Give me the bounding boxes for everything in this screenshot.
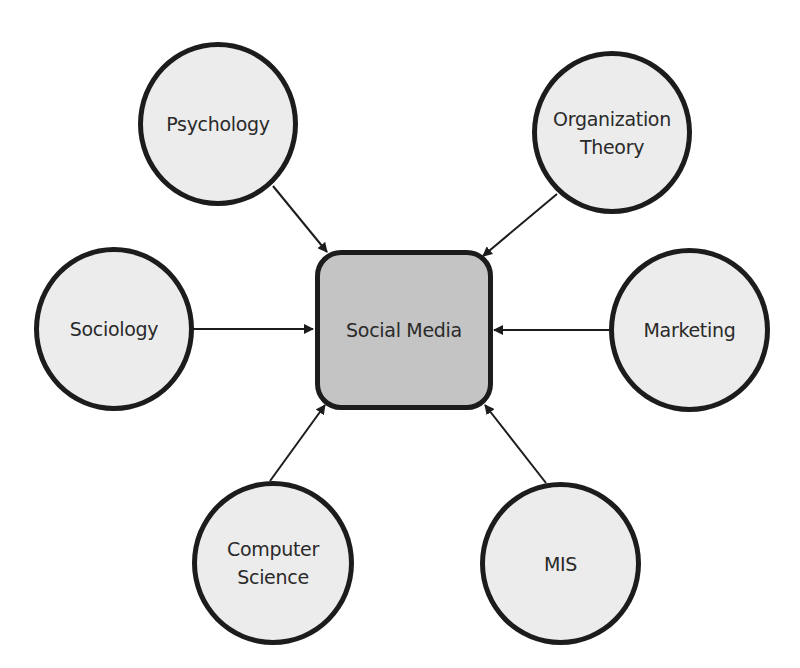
arrow-psychology-to-center [273,186,327,252]
node-computer-science: Computer Science [192,481,354,645]
arrow-computer-science-to-center [270,405,325,481]
node-label-mis: MIS [544,550,577,578]
node-label-marketing: Marketing [644,316,736,344]
node-label-psychology: Psychology [166,110,270,138]
node-mis: MIS [480,482,641,645]
node-sociology: Sociology [34,247,194,411]
center-node-label: Social Media [346,319,462,341]
social-media-diagram: Social Media Psychology Organization The… [0,0,800,668]
node-label-organization-theory: Organization Theory [553,105,671,161]
node-organization-theory: Organization Theory [532,51,692,214]
node-marketing: Marketing [609,248,770,412]
arrow-mis-to-center [485,405,546,483]
node-label-computer-science: Computer Science [227,535,319,591]
center-node-social-media: Social Media [315,250,493,410]
node-label-sociology: Sociology [70,315,159,343]
arrow-organization-theory-to-center [483,194,557,256]
node-psychology: Psychology [138,42,298,206]
